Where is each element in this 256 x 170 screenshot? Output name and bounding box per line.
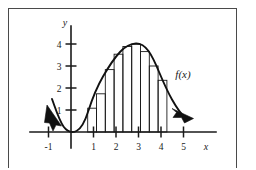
y-tick-label-4: 4 [57,40,62,50]
x-tick-label-4: 4 [159,142,164,152]
x-axis-label: x [203,141,209,152]
x-tick-label-1: 1 [91,142,96,152]
riemann-rectangles [88,44,167,132]
riemann-rect [141,52,150,132]
x-tick-label-5: 5 [181,142,186,152]
function-label: f(x) [175,68,191,81]
x-tick-label-3: 3 [136,142,141,152]
riemann-rect [97,94,106,132]
x-tick-label-neg1: -1 [45,142,53,152]
x-tick-label-2: 2 [114,142,119,152]
riemann-rect [123,47,132,133]
y-tick-label-2: 2 [57,84,62,94]
riemann-rect [114,54,123,132]
y-axis-label: y [62,17,68,28]
right-curve-pointer-arrow [172,109,194,124]
riemann-rect [105,70,114,132]
y-tick-label-3: 3 [57,62,62,72]
figure-root: -1 1 2 3 4 5 1 2 3 4 y x f(x) [0,0,256,170]
riemann-rect [132,44,141,132]
riemann-rect [149,66,158,132]
y-tick-label-1: 1 [57,106,62,116]
riemann-sum-plot: -1 1 2 3 4 5 1 2 3 4 y x f(x) [0,0,256,170]
